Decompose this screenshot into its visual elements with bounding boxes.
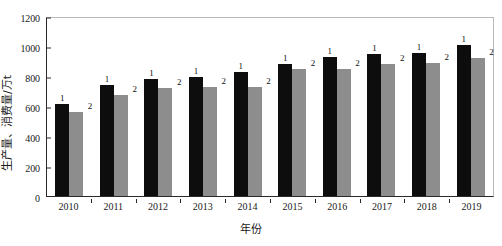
bar-group: 12 xyxy=(136,18,181,196)
bar-chart-figure: 生产量、消费量/万t 020040060080010001200 1212121… xyxy=(0,0,502,246)
x-axis-tick-label: 2016 xyxy=(315,199,360,217)
bar-series-2: 2 xyxy=(337,69,351,196)
x-axis-tick-mark xyxy=(225,199,226,203)
x-axis-tick-label: 2010 xyxy=(46,199,91,217)
bar-series-label: 1 xyxy=(283,53,288,64)
bars-layer: 12121212121212121212 xyxy=(47,18,493,196)
bar-group: 12 xyxy=(270,18,315,196)
x-axis-tick-labels: 2010201120122013201420152016201720182019 xyxy=(46,199,494,217)
x-axis-tick-mark xyxy=(91,199,92,203)
bar-series-2: 2 xyxy=(248,87,262,197)
x-axis-tick-label: 2012 xyxy=(136,199,181,217)
bar-series-label: 1 xyxy=(149,68,154,79)
bar-series-label: 2 xyxy=(489,47,494,58)
x-axis-tick-label: 2015 xyxy=(270,199,315,217)
x-axis-tick-label: 2017 xyxy=(360,199,405,217)
bar-series-1: 1 xyxy=(278,64,292,196)
bar-series-label: 1 xyxy=(461,34,466,45)
x-axis-tick-label: 2019 xyxy=(449,199,494,217)
bar-series-2: 2 xyxy=(158,88,172,196)
x-axis-tick-label: 2013 xyxy=(180,199,225,217)
bar-group: 12 xyxy=(359,18,404,196)
bar-series-1: 1 xyxy=(55,104,69,196)
x-axis-tick-label: 2014 xyxy=(225,199,270,217)
x-axis-tick-label: 2018 xyxy=(404,199,449,217)
bar-series-2: 2 xyxy=(203,87,217,197)
y-axis-tick-label: 1200 xyxy=(20,13,47,24)
plot-area: 020040060080010001200 121212121212121212… xyxy=(46,17,494,197)
bar-series-label: 1 xyxy=(417,42,422,53)
y-axis-tick-label: 800 xyxy=(25,73,47,84)
bar-series-2: 2 xyxy=(426,63,440,197)
x-axis-tick-mark xyxy=(404,199,405,203)
bar-group: 12 xyxy=(47,18,92,196)
bar-series-1: 1 xyxy=(189,77,203,196)
bar-series-label: 1 xyxy=(60,93,65,104)
bar-series-1: 1 xyxy=(100,85,114,196)
y-axis-tick-label: 200 xyxy=(25,163,47,174)
x-axis-tick-mark xyxy=(270,199,271,203)
bar-group: 12 xyxy=(92,18,137,196)
bar-series-label: 1 xyxy=(328,46,333,57)
y-axis-tick-label: 1000 xyxy=(20,43,47,54)
x-axis-tick-mark xyxy=(315,199,316,203)
bar-series-2: 2 xyxy=(69,112,83,196)
bar-series-1: 1 xyxy=(323,57,337,196)
bar-series-label: 1 xyxy=(105,74,110,85)
bar-series-label: 1 xyxy=(238,61,243,72)
bar-series-label: 1 xyxy=(194,66,199,77)
x-axis-tick-label: 2011 xyxy=(91,199,136,217)
bar-group: 12 xyxy=(181,18,226,196)
bar-group: 12 xyxy=(225,18,270,196)
bar-series-1: 1 xyxy=(367,54,381,196)
y-axis-tick-label: 600 xyxy=(25,103,47,114)
bar-group: 12 xyxy=(315,18,360,196)
bar-series-1: 1 xyxy=(144,79,158,196)
bar-series-1: 1 xyxy=(234,72,248,196)
bar-series-2: 2 xyxy=(381,64,395,196)
bar-group: 12 xyxy=(404,18,449,196)
bar-series-1: 1 xyxy=(457,45,471,196)
x-axis-title: 年份 xyxy=(0,220,502,236)
bar-series-2: 2 xyxy=(114,95,128,196)
x-axis-tick-mark xyxy=(180,199,181,203)
y-axis-title: 生产量、消费量/万t xyxy=(0,48,14,198)
bar-series-2: 2 xyxy=(471,58,485,196)
x-axis-tick-mark xyxy=(136,199,137,203)
bar-group: 12 xyxy=(448,18,493,196)
x-axis-tick-mark xyxy=(360,199,361,203)
bar-series-label: 1 xyxy=(372,43,377,54)
y-axis-tick-label: 400 xyxy=(25,133,47,144)
x-axis-tick-mark xyxy=(449,199,450,203)
bar-series-2: 2 xyxy=(292,69,306,197)
bar-series-1: 1 xyxy=(412,53,426,196)
